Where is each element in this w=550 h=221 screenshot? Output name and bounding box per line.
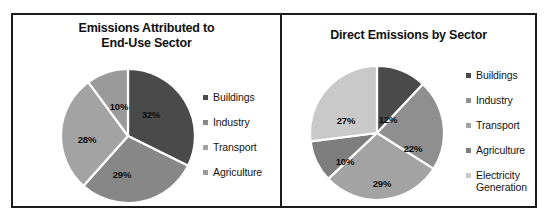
figure-frame: Emissions Attributed to End-Use Sector 3… <box>11 13 537 208</box>
legend-swatch-icon <box>203 145 208 150</box>
legend-swatch-icon <box>203 95 208 100</box>
legend-label: Industry <box>213 116 250 128</box>
chart-panel-end-use: Emissions Attributed to End-Use Sector 3… <box>13 15 280 206</box>
pie-chart-direct: 12% 22% 29% 10% 27% <box>308 64 446 202</box>
legend-swatch-icon <box>466 123 471 128</box>
chart-title-line-1: Emissions Attributed to <box>13 21 280 36</box>
legend-label: Agriculture <box>213 166 262 178</box>
chart-title-end-use: Emissions Attributed to End-Use Sector <box>13 21 280 51</box>
legend-item-agriculture[interactable]: Agriculture <box>203 166 262 178</box>
slice-label-transport: 29% <box>373 178 391 189</box>
legend-label: Transport <box>476 119 520 131</box>
legend-end-use: BuildingsIndustryTransportAgriculture <box>203 91 262 191</box>
legend-direct: BuildingsIndustryTransportAgricultureEle… <box>466 69 527 193</box>
legend-item-buildings[interactable]: Buildings <box>466 69 527 81</box>
slice-label-transport: 28% <box>78 134 96 145</box>
slice-label-agriculture: 10% <box>110 101 128 112</box>
legend-item-industry[interactable]: Industry <box>466 94 527 106</box>
slice-label-buildings: 32% <box>142 109 160 120</box>
legend-swatch-icon <box>203 120 208 125</box>
chart-title-line-2: End-Use Sector <box>13 36 280 51</box>
chart-title-direct: Direct Emissions by Sector <box>282 28 535 43</box>
legend-label: Buildings <box>476 69 518 81</box>
legend-swatch-icon <box>203 170 208 175</box>
legend-swatch-icon <box>466 148 471 153</box>
slice-label-agriculture: 10% <box>336 156 354 167</box>
pie-slice-electricity-generation <box>310 66 377 141</box>
legend-item-transport[interactable]: Transport <box>466 119 527 131</box>
legend-item-electricity-generation[interactable]: Electricity Generation <box>466 169 527 193</box>
legend-label: Transport <box>213 141 257 153</box>
legend-label: Buildings <box>213 91 255 103</box>
legend-swatch-icon <box>466 98 471 103</box>
chart-panel-direct: Direct Emissions by Sector 12% 22% 29% 1… <box>282 15 535 206</box>
slice-label-buildings: 12% <box>379 114 397 125</box>
slice-label-electricity: 27% <box>337 115 355 126</box>
legend-label: Industry <box>476 94 513 106</box>
legend-label: Electricity Generation <box>476 169 527 193</box>
legend-item-transport[interactable]: Transport <box>203 141 262 153</box>
legend-label: Agriculture <box>476 144 525 156</box>
chart-title-line-1: Direct Emissions by Sector <box>282 28 535 43</box>
slice-label-industry: 22% <box>404 143 422 154</box>
slice-label-industry: 29% <box>113 169 131 180</box>
legend-item-agriculture[interactable]: Agriculture <box>466 144 527 156</box>
legend-item-industry[interactable]: Industry <box>203 116 262 128</box>
legend-item-buildings[interactable]: Buildings <box>203 91 262 103</box>
pie-chart-end-use: 32% 29% 28% 10% <box>59 67 197 205</box>
legend-swatch-icon <box>466 73 471 78</box>
legend-swatch-icon <box>466 173 471 178</box>
